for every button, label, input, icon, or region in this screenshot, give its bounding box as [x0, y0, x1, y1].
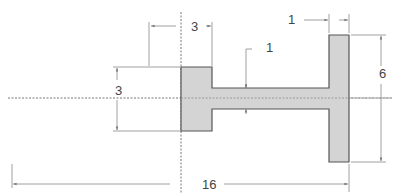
dim-flange-width [304, 14, 349, 33]
profile-shape [181, 35, 349, 162]
technical-drawing [0, 0, 398, 196]
label-total-length: 16 [202, 178, 216, 191]
dim-left-height [113, 67, 180, 131]
label-flange-height: 6 [379, 67, 386, 80]
label-flange-width: 1 [288, 13, 295, 26]
label-web-thickness: 1 [266, 41, 273, 54]
label-left-width: 3 [191, 20, 198, 33]
label-left-height: 3 [115, 84, 122, 97]
